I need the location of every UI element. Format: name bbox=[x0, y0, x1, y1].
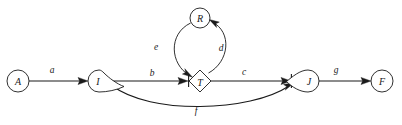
node-J-label: J bbox=[307, 76, 312, 87]
edge-label-d: d bbox=[219, 43, 224, 53]
diagram-canvas: A I R T J F a b c d e f g bbox=[0, 0, 402, 125]
node-T[interactable]: T bbox=[189, 70, 211, 92]
node-R[interactable]: R bbox=[190, 8, 210, 28]
edge-a bbox=[29, 77, 88, 84]
node-F-label: F bbox=[378, 76, 386, 87]
edge-c bbox=[211, 74, 291, 88]
edge-label-c: c bbox=[242, 67, 247, 77]
edge-label-g: g bbox=[334, 65, 339, 75]
edge-g bbox=[318, 77, 371, 84]
edge-label-b: b bbox=[150, 68, 155, 78]
node-A-label: A bbox=[14, 76, 22, 87]
edge-e bbox=[174, 23, 192, 77]
node-A[interactable]: A bbox=[7, 70, 29, 92]
edge-label-a: a bbox=[50, 65, 55, 75]
edge-label-e: e bbox=[154, 42, 158, 52]
network-diagram: A I R T J F a b c d e f g bbox=[0, 0, 402, 125]
node-J-teardrop bbox=[287, 70, 320, 92]
edge-e-arrowhead bbox=[182, 69, 192, 78]
edge-g-arrowhead bbox=[361, 77, 371, 84]
edge-label-f: f bbox=[195, 106, 199, 116]
node-J[interactable]: J bbox=[287, 70, 320, 92]
node-I-label: I bbox=[95, 76, 100, 87]
edge-e-curve bbox=[174, 23, 190, 76]
node-R-label: R bbox=[196, 13, 203, 24]
edge-b-arrowhead bbox=[178, 77, 188, 84]
node-F[interactable]: F bbox=[371, 70, 393, 92]
edge-a-arrowhead bbox=[78, 77, 88, 84]
